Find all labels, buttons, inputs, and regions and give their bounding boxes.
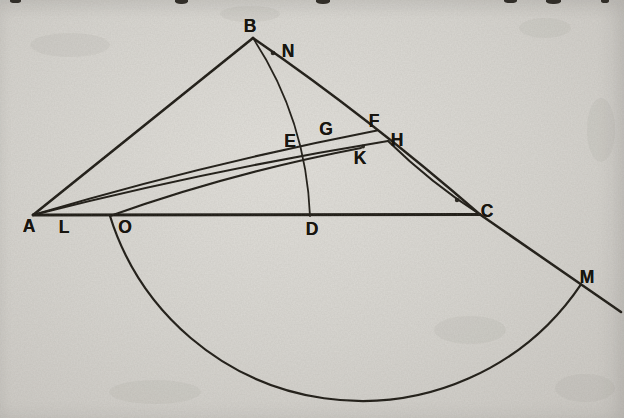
geometry-figure (0, 0, 624, 418)
scanned-page: ABCDEFGHKLMNO (0, 0, 624, 418)
scan-grain-overlay (0, 0, 624, 418)
